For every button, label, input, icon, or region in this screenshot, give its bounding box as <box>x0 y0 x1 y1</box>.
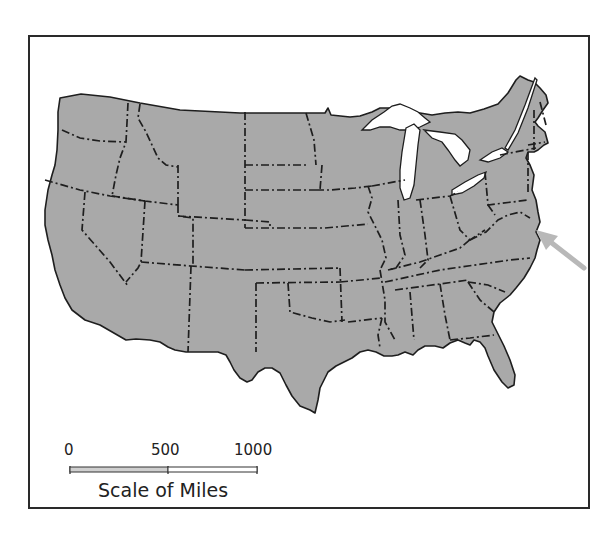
scale-tick-500: 500 <box>151 441 180 459</box>
pointer-arrow <box>536 230 584 268</box>
scale-tick-1000: 1000 <box>234 441 272 459</box>
us-map <box>0 0 616 535</box>
scale-bar <box>70 466 257 474</box>
scale-tick-0: 0 <box>64 441 74 459</box>
scale-title: Scale of Miles <box>98 479 228 501</box>
us-land-outline <box>45 76 548 413</box>
